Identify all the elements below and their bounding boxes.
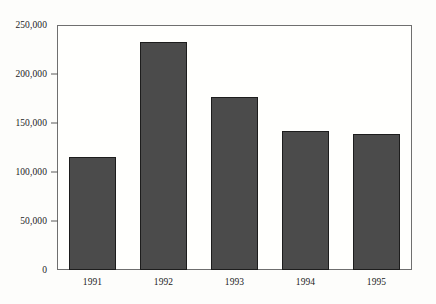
x-axis: 19911992199319941995 xyxy=(57,270,412,304)
bar xyxy=(69,157,116,270)
bar xyxy=(282,131,329,270)
x-tick-label: 1993 xyxy=(225,277,244,287)
bar xyxy=(211,97,258,270)
y-tick-label: 0 xyxy=(42,265,47,275)
y-tick-label: 150,000 xyxy=(15,118,47,128)
bar xyxy=(140,42,187,270)
x-tick-label: 1992 xyxy=(154,277,173,287)
x-tick-label: 1994 xyxy=(296,277,315,287)
y-tick-label: 200,000 xyxy=(15,69,47,79)
y-tick-label: 100,000 xyxy=(15,167,47,177)
bars-layer xyxy=(57,25,412,270)
x-tick-label: 1995 xyxy=(367,277,386,287)
y-tick-label: 50,000 xyxy=(20,216,47,226)
y-tick-label: 250,000 xyxy=(15,20,47,30)
x-tick-label: 1991 xyxy=(83,277,102,287)
bar xyxy=(353,134,400,270)
bar-chart: 050,000100,000150,000200,000250,000 1991… xyxy=(0,0,436,304)
y-axis: 050,000100,000150,000200,000250,000 xyxy=(0,0,57,304)
